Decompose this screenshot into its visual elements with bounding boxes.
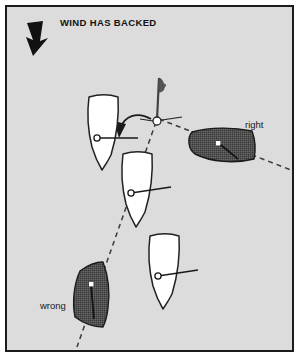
boat-mast [128, 190, 134, 196]
boat-mast [94, 135, 100, 141]
wind-direction-arrow [26, 21, 48, 56]
boat-label-wrong: wrong [40, 300, 66, 311]
page-title: WIND HAS BACKED [60, 17, 157, 28]
boat-mast [216, 141, 220, 145]
mark-tick-left [140, 119, 153, 121]
boat-mast [155, 273, 161, 279]
boat-hull [88, 95, 118, 170]
diagram-frame: WIND HAS BACKED right wrong [5, 5, 294, 352]
boat-white-middle[interactable] [122, 152, 171, 227]
boat-shaded-wrong[interactable] [74, 262, 109, 327]
boat-hull [149, 234, 179, 309]
figure-root: WIND HAS BACKED right wrong [0, 0, 299, 357]
boat-label-right: right [245, 119, 263, 130]
boat-mast [89, 282, 93, 286]
mark-buoy-circle [153, 117, 161, 125]
mark-tick-right [162, 117, 182, 120]
mark-flag-icon [159, 78, 166, 92]
tack-turn-arrow [114, 115, 151, 138]
boat-shaded-right[interactable] [189, 128, 255, 162]
boat-hull [122, 152, 152, 227]
diagram-canvas [7, 7, 292, 350]
racing-mark-buoy [140, 78, 182, 125]
boat-white-lower[interactable] [149, 234, 198, 309]
